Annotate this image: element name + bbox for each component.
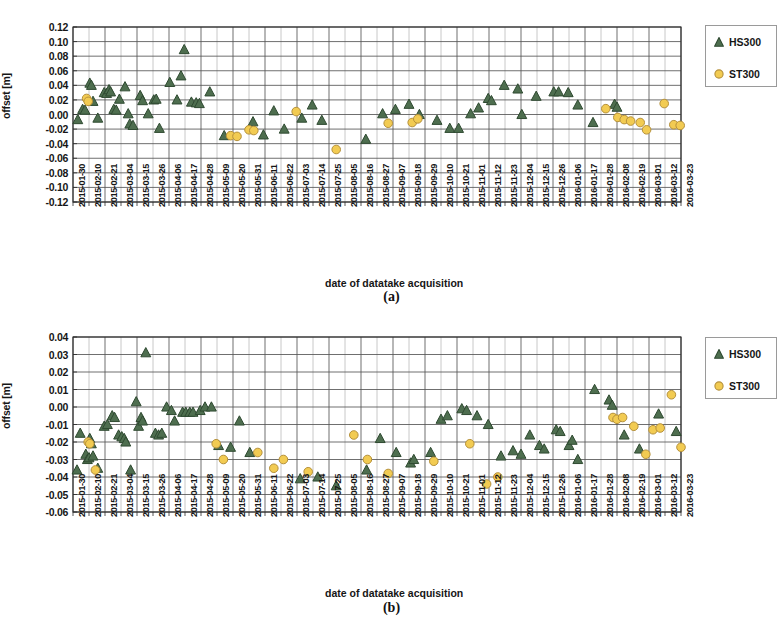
x-tick-label: 2015-09-18 <box>413 164 423 207</box>
y-tick-label: -0.03 <box>46 454 68 466</box>
circle-marker <box>714 381 724 391</box>
x-tick-label: 2016-02-08 <box>621 164 631 207</box>
x-tick-label: 2016-01-17 <box>589 164 599 207</box>
x-tick-label: 2016-01-06 <box>573 164 583 207</box>
x-tick-label: 2015-04-17 <box>189 164 199 207</box>
y-tick-label: -0.08 <box>46 167 68 179</box>
x-tick-label: 2015-03-04 <box>125 164 135 207</box>
x-tick-label: 2015-05-20 <box>237 474 247 517</box>
legend-label: HS300 <box>729 348 761 360</box>
y-tick-label: -0.04 <box>46 138 68 150</box>
x-tick-label: 2015-10-10 <box>445 164 455 207</box>
x-tick-label: 2015-06-22 <box>285 164 295 207</box>
y-tick-label: 0.02 <box>49 94 68 106</box>
x-tick-label: 2015-12-04 <box>525 474 535 517</box>
x-tick-label: 2015-01-30 <box>77 164 87 207</box>
x-tick-label: 2015-12-26 <box>557 164 567 207</box>
legend-entry-st300[interactable]: ST300 <box>714 68 760 80</box>
x-tick-label: 2016-02-08 <box>621 474 631 517</box>
legend-entry-hs300[interactable]: HS300 <box>714 36 761 48</box>
y-axis-label-b: offset [m] <box>0 383 12 429</box>
chart-panel-a: offset [m] date of datatake acquisition … <box>0 0 783 310</box>
x-tick-label: 2016-03-01 <box>653 164 663 207</box>
x-tick-label: 2015-09-07 <box>397 474 407 517</box>
x-tick-label: 2015-11-23 <box>509 165 519 208</box>
x-tick-label: 2016-01-28 <box>605 474 615 517</box>
legend-label: ST300 <box>729 380 760 392</box>
x-tick-label: 2015-12-26 <box>557 474 567 517</box>
y-tick-label: 0.06 <box>49 65 68 77</box>
x-tick-label: 2015-03-26 <box>157 474 167 517</box>
x-tick-label: 2015-08-16 <box>365 474 375 517</box>
y-tick-label: -0.05 <box>46 489 68 501</box>
y-tick-label: -0.02 <box>46 123 68 135</box>
figure-container: offset [m] date of datatake acquisition … <box>0 0 783 625</box>
x-tick-label: 2015-11-01 <box>477 475 487 518</box>
y-tick-label: 0.00 <box>49 109 68 121</box>
x-tick-label: 2015-04-28 <box>205 164 215 207</box>
x-tick-label: 2015-09-18 <box>413 474 423 517</box>
x-tick-label: 2015-03-15 <box>141 164 151 207</box>
subfigure-caption-a: (a) <box>0 289 783 305</box>
x-tick-label: 2015-08-27 <box>381 474 391 517</box>
x-tick-label: 2015-12-15 <box>541 164 551 207</box>
x-tick-label: 2016-03-23 <box>685 474 695 517</box>
x-tick-label: 2015-03-15 <box>141 474 151 517</box>
circle-marker <box>714 69 724 79</box>
y-tick-label: 0.10 <box>49 36 68 48</box>
x-tick-label: 2015-06-11 <box>269 475 279 518</box>
subfigure-caption-b: (b) <box>0 600 783 616</box>
x-tick-label: 2015-05-31 <box>253 164 263 207</box>
x-tick-label: 2016-02-19 <box>637 474 647 517</box>
x-tick-label: 2015-01-30 <box>77 474 87 517</box>
x-tick-label: 2015-04-28 <box>205 474 215 517</box>
x-tick-label: 2015-10-21 <box>461 474 471 517</box>
x-tick-label: 2015-03-26 <box>157 164 167 207</box>
legend-label: ST300 <box>729 68 760 80</box>
x-axis-title-a: date of datatake acquisition <box>325 277 463 289</box>
y-tick-label: -0.04 <box>46 471 68 483</box>
legend-label: HS300 <box>729 36 761 48</box>
x-tick-label: 2016-02-19 <box>637 164 647 207</box>
y-tick-label: -0.02 <box>46 436 68 448</box>
x-tick-label: 2015-02-21 <box>109 164 119 207</box>
y-tick-label: 0.03 <box>49 349 68 361</box>
triangle-marker <box>714 349 724 359</box>
x-tick-label: 2016-01-17 <box>589 474 599 517</box>
legend-entry-hs300[interactable]: HS300 <box>714 348 761 360</box>
x-tick-label: 2015-02-10 <box>93 474 103 517</box>
legend-b: HS300 ST300 <box>705 337 777 399</box>
x-tick-label: 2015-11-12 <box>493 475 503 518</box>
y-tick-label: -0.06 <box>46 152 68 164</box>
x-tick-label: 2015-09-07 <box>397 164 407 207</box>
x-tick-label: 2015-06-22 <box>285 474 295 517</box>
x-tick-label: 2015-12-04 <box>525 164 535 207</box>
x-tick-label: 2016-03-12 <box>669 164 679 207</box>
x-tick-label: 2015-11-12 <box>493 165 503 208</box>
x-tick-label: 2015-11-01 <box>477 165 487 208</box>
x-tick-label: 2015-08-05 <box>349 474 359 517</box>
x-tick-label: 2015-08-05 <box>349 164 359 207</box>
x-tick-label: 2016-03-12 <box>669 474 679 517</box>
x-tick-label: 2015-08-27 <box>381 164 391 207</box>
x-tick-label: 2015-05-31 <box>253 474 263 517</box>
y-tick-label: 0.08 <box>49 50 68 62</box>
y-tick-label: -0.01 <box>46 419 68 431</box>
y-tick-label: 0.04 <box>49 79 68 91</box>
x-tick-label: 2016-03-01 <box>653 474 663 517</box>
y-tick-label: 0.00 <box>49 401 68 413</box>
x-tick-label: 2015-07-14 <box>317 164 327 207</box>
chart-panel-b: offset [m] date of datatake acquisition … <box>0 312 783 625</box>
x-tick-label: 2015-07-14 <box>317 474 327 517</box>
x-tick-label: 2015-07-25 <box>333 474 343 517</box>
x-tick-label: 2015-04-06 <box>173 164 183 207</box>
x-tick-label: 2015-02-10 <box>93 164 103 207</box>
x-tick-label: 2015-07-03 <box>301 474 311 517</box>
y-tick-label: -0.10 <box>46 181 68 193</box>
x-tick-label: 2015-05-20 <box>237 164 247 207</box>
y-axis-label-a: offset [m] <box>0 73 12 119</box>
x-tick-label: 2015-12-15 <box>541 474 551 517</box>
x-tick-label: 2015-04-17 <box>189 474 199 517</box>
legend-entry-st300[interactable]: ST300 <box>714 380 760 392</box>
x-tick-label: 2015-09-29 <box>429 164 439 207</box>
